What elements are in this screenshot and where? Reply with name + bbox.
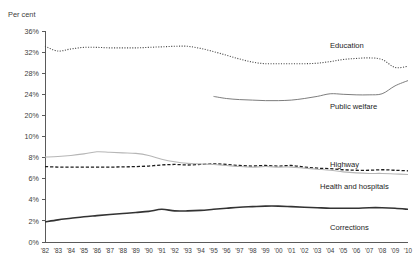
- y-tick-label: 10%: [25, 132, 40, 141]
- x-tick-label: '82: [41, 247, 50, 254]
- x-tick-label: '05: [339, 247, 348, 254]
- x-tick-label: '09: [391, 247, 400, 254]
- x-tick-label: '91: [158, 247, 167, 254]
- x-tick-label: '97: [235, 247, 244, 254]
- x-axis: '82'83'84'85'86'87'88'89'90'91'92'93'94'…: [41, 242, 413, 254]
- x-tick-label: '08: [378, 247, 387, 254]
- y-axis-title: Per cent: [8, 10, 36, 19]
- x-tick-label: '83: [54, 247, 63, 254]
- x-tick-label: '90: [145, 247, 154, 254]
- x-tick-label: '98: [248, 247, 257, 254]
- y-tick-label: 6%: [29, 174, 40, 183]
- y-tick-label: 28%: [25, 69, 40, 78]
- series-line-corrections: [45, 206, 408, 222]
- x-tick-label: '02: [300, 247, 309, 254]
- chart-container: Per cent 36%32%28%24%20%10%8%6%4%2%0% '8…: [0, 0, 414, 267]
- series-label-public-welfare: Public welfare: [330, 102, 377, 111]
- x-tick-label: '89: [132, 247, 141, 254]
- x-tick-label: '03: [313, 247, 322, 254]
- y-tick-label: 32%: [25, 48, 40, 57]
- series-line-public-welfare: [214, 81, 408, 101]
- series-label-education: Education: [330, 41, 364, 50]
- series-label-corrections: Corrections: [330, 223, 369, 232]
- y-tick-label: 36%: [25, 27, 40, 36]
- y-tick-label: 4%: [29, 195, 40, 204]
- x-tick-label: '10: [404, 247, 413, 254]
- x-tick-label: '01: [287, 247, 296, 254]
- series-labels: EducationPublic welfareHighwayHealth and…: [320, 41, 389, 232]
- series-label-health-and-hospitals: Health and hospitals: [320, 182, 389, 191]
- x-tick-label: '92: [170, 247, 179, 254]
- y-axis: 36%32%28%24%20%10%8%6%4%2%0%: [25, 27, 45, 247]
- y-tick-label: 0%: [29, 238, 40, 247]
- series-lines: [45, 46, 408, 222]
- x-tick-label: '85: [80, 247, 89, 254]
- series-label-highway: Highway: [330, 160, 359, 169]
- x-tick-label: '07: [365, 247, 374, 254]
- x-tick-label: '84: [67, 247, 76, 254]
- y-tick-label: 2%: [29, 217, 40, 226]
- x-tick-label: '86: [93, 247, 102, 254]
- x-tick-label: '87: [106, 247, 115, 254]
- x-tick-label: '94: [196, 247, 205, 254]
- x-tick-label: '04: [326, 247, 335, 254]
- x-tick-label: '06: [352, 247, 361, 254]
- x-tick-label: '93: [183, 247, 192, 254]
- y-tick-label: 8%: [29, 153, 40, 162]
- y-tick-label: 24%: [25, 90, 40, 99]
- x-tick-label: '88: [119, 247, 128, 254]
- x-tick-label: '95: [209, 247, 218, 254]
- y-tick-label: 20%: [25, 111, 40, 120]
- x-tick-label: '96: [222, 247, 231, 254]
- line-chart: Per cent 36%32%28%24%20%10%8%6%4%2%0% '8…: [0, 0, 414, 267]
- x-tick-label: '00: [274, 247, 283, 254]
- x-tick-label: '99: [261, 247, 270, 254]
